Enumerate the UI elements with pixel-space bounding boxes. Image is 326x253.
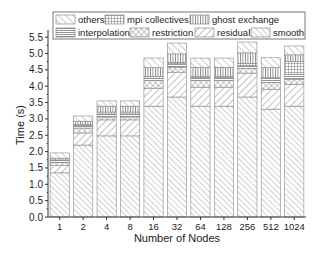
legend-label: mpi collectives — [127, 14, 189, 25]
segment-residual — [238, 73, 257, 97]
segment-smooth — [167, 97, 186, 217]
x-tick-label: 32 — [172, 221, 183, 232]
segment-restriction — [261, 82, 280, 89]
segment-ghost-exchange — [120, 106, 139, 112]
segment-restriction — [214, 80, 233, 87]
segment-others — [144, 58, 163, 67]
segment-smooth — [120, 136, 139, 217]
segment-ghost-exchange — [261, 68, 280, 78]
segment-interpolation — [214, 77, 233, 80]
segment-residual — [97, 120, 116, 136]
segment-restriction — [50, 163, 69, 166]
bar-32 — [167, 43, 186, 217]
y-tick-label: 2.0 — [29, 146, 43, 157]
legend-label: residual — [217, 27, 250, 38]
segment-restriction — [97, 117, 116, 120]
bar-1 — [50, 153, 69, 217]
y-tick-label: 4.5 — [29, 64, 43, 75]
x-tick-label: 64 — [195, 221, 206, 232]
segment-interpolation — [238, 65, 257, 68]
x-tick-label: 2 — [81, 221, 86, 232]
y-tick-label: 2.5 — [29, 130, 43, 141]
y-axis-label: Time (s) — [14, 105, 26, 145]
segment-restriction — [144, 80, 163, 88]
y-tick-label: 3.5 — [29, 97, 43, 108]
y-tick-label: 4.0 — [29, 81, 43, 92]
segment-interpolation — [261, 78, 280, 82]
x-tick-label: 256 — [239, 221, 255, 232]
segment-smooth — [191, 106, 210, 217]
segment-residual — [191, 87, 210, 106]
segment-residual — [144, 88, 163, 106]
x-tick-label: 8 — [127, 221, 132, 232]
segment-smooth — [144, 106, 163, 217]
legend-label: smooth — [273, 27, 304, 38]
x-axis-label: Number of Nodes — [134, 232, 221, 244]
bar-512 — [261, 58, 280, 217]
legend-swatch-others — [56, 15, 75, 24]
segment-residual — [261, 89, 280, 109]
segment-others — [191, 58, 210, 67]
segment-others — [74, 116, 93, 121]
x-tick-label: 512 — [263, 221, 279, 232]
segment-ghost-exchange — [167, 54, 186, 63]
bar-2 — [74, 116, 93, 217]
x-tick-label: 4 — [104, 221, 109, 232]
bar-4 — [97, 101, 116, 217]
segment-residual — [285, 84, 304, 106]
bar-64 — [191, 58, 210, 217]
legend-swatch-smooth — [251, 28, 270, 37]
bars-group — [50, 42, 304, 217]
y-tick-label: 0.0 — [29, 212, 43, 223]
segment-ghost-exchange — [97, 106, 116, 112]
segment-others — [214, 58, 233, 67]
segment-mpi-collectives — [285, 61, 304, 74]
segment-restriction — [74, 128, 93, 133]
bar-128 — [214, 58, 233, 217]
bar-8 — [120, 101, 139, 217]
segment-smooth — [74, 145, 93, 217]
segment-others — [50, 153, 69, 158]
segment-smooth — [97, 136, 116, 217]
segment-smooth — [238, 97, 257, 217]
segment-interpolation — [97, 114, 116, 117]
bar-1024 — [285, 46, 304, 217]
segment-ghost-exchange — [238, 53, 257, 63]
legend-swatch-residual — [195, 28, 214, 37]
segment-others — [285, 46, 304, 55]
segment-residual — [167, 72, 186, 97]
segment-ghost-exchange — [214, 67, 233, 76]
stacked-bar-chart: 0.00.51.01.52.02.53.03.54.04.55.05.51248… — [0, 0, 326, 253]
segment-others — [167, 43, 186, 54]
x-tick-label: 128 — [216, 221, 232, 232]
legend-swatch-ghost-exchange — [190, 15, 209, 24]
segment-restriction — [238, 68, 257, 73]
segment-others — [120, 101, 139, 106]
y-tick-label: 1.0 — [29, 179, 43, 190]
segment-restriction — [285, 79, 304, 84]
segment-ghost-exchange — [285, 55, 304, 62]
legend-swatch-restriction — [130, 28, 149, 37]
segment-interpolation — [120, 114, 139, 117]
segment-interpolation — [191, 77, 210, 80]
segment-restriction — [191, 80, 210, 87]
segment-restriction — [120, 117, 139, 120]
segment-ghost-exchange — [74, 121, 93, 124]
segment-smooth — [50, 173, 69, 217]
segment-smooth — [285, 106, 304, 217]
segment-smooth — [261, 109, 280, 217]
x-tick-label: 1024 — [284, 221, 305, 232]
segment-residual — [50, 166, 69, 173]
legend-label: restriction — [152, 27, 193, 38]
segment-interpolation — [285, 74, 304, 79]
bar-16 — [144, 58, 163, 217]
segment-interpolation — [74, 125, 93, 128]
y-tick-label: 5.5 — [29, 32, 43, 43]
legend-swatch-mpi-collectives — [105, 15, 124, 24]
y-tick-label: 1.5 — [29, 162, 43, 173]
x-tick-label: 1 — [57, 221, 62, 232]
segment-interpolation — [50, 161, 69, 163]
y-tick-label: 0.5 — [29, 195, 43, 206]
y-tick-label: 3.0 — [29, 113, 43, 124]
x-tick-label: 16 — [148, 221, 159, 232]
